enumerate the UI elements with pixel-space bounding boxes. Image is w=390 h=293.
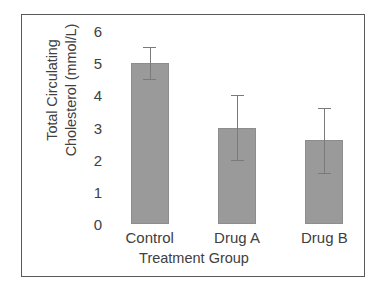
y-tick-label-0: 0 [66, 217, 102, 232]
y-tick-label-6: 6 [66, 24, 102, 39]
y-axis-title-line-1: Total Circulating [43, 39, 62, 140]
error-bar-lower-cap-control [143, 79, 156, 80]
error-bar-lower-cap-drug-b [318, 173, 331, 174]
error-bar-line-drug-a [237, 95, 238, 159]
bar-control [131, 63, 169, 224]
x-tick-label-drug-b: Drug B [301, 228, 348, 248]
error-bar-upper-cap-drug-a [231, 95, 244, 96]
y-tick-label-2: 2 [66, 152, 102, 167]
error-bar-upper-cap-control [143, 47, 156, 48]
y-tick-label-5: 5 [66, 56, 102, 71]
x-tick-label-drug-a: Drug A [214, 228, 260, 248]
figure-frame: Total Circulating Cholesterol (mmol/L) 0… [21, 14, 365, 277]
y-axis-tick-labels: 0123456 [66, 15, 102, 278]
y-tick-label-3: 3 [66, 120, 102, 135]
error-bar-lower-cap-drug-a [231, 160, 244, 161]
chart-figure: Total Circulating Cholesterol (mmol/L) 0… [0, 0, 390, 293]
x-axis-title: Treatment Group [22, 249, 366, 267]
error-bar-line-control [150, 47, 151, 79]
error-bar-line-drug-b [324, 108, 325, 172]
plot-area [106, 31, 368, 224]
y-tick-label-1: 1 [66, 184, 102, 199]
x-tick-label-control: Control [125, 228, 173, 248]
y-tick-label-4: 4 [66, 88, 102, 103]
error-bar-upper-cap-drug-b [318, 108, 331, 109]
